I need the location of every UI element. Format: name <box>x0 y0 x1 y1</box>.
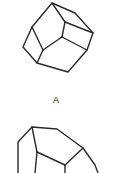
crystal-b <box>18 127 98 173</box>
crystal-diagram <box>0 0 117 173</box>
figure-label-a: A <box>53 95 59 105</box>
crystal-a <box>23 3 93 72</box>
